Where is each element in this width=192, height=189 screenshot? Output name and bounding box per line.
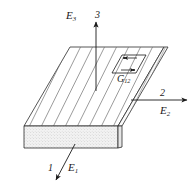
axis-2-number-label: 2: [160, 88, 165, 98]
shear-modulus-label: G12: [117, 74, 130, 85]
shear-modulus-subscript: 12: [124, 77, 130, 84]
axis-3-modulus-label: E3: [66, 10, 76, 22]
axis-3-modulus-symbol: E: [66, 9, 73, 21]
axis-1-number-label: 1: [48, 163, 53, 173]
axis-1-modulus-subscript: 1: [75, 167, 78, 174]
axis-2-modulus-label: E2: [160, 105, 170, 117]
figure-canvas: E3 3 2 E2 1 E1 G12: [0, 0, 192, 189]
axis-2-modulus-subscript: 2: [167, 110, 170, 117]
axis-1-modulus-label: E1: [68, 162, 78, 174]
axis-1-modulus-symbol: E: [68, 161, 75, 173]
slab-front-face: [24, 126, 122, 148]
axis-3-number-label: 3: [95, 10, 100, 20]
axis-2-modulus-symbol: E: [160, 104, 167, 116]
axis-3-modulus-subscript: 3: [73, 15, 76, 22]
slab-top-face: [2, 40, 180, 133]
